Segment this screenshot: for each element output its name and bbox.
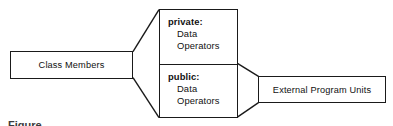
class-members-detail-node: private: Data Operators public: Data Ope…	[159, 9, 238, 118]
connector-public-top-to-external-units	[237, 63, 259, 76]
connector-public-bottom-to-external-units	[237, 103, 259, 118]
private-section-member-operators: Operators	[168, 40, 237, 52]
public-section-title: public:	[168, 71, 237, 83]
connector-class-members-to-public	[133, 78, 159, 118]
public-section: public: Data Operators	[160, 64, 237, 118]
public-section-member-data: Data	[168, 83, 237, 95]
figure-caption: Figure	[8, 119, 308, 126]
connector-class-members-to-private	[133, 10, 159, 52]
private-section-title: private:	[168, 16, 237, 28]
class-members-label: Class Members	[39, 60, 105, 70]
private-section: private: Data Operators	[160, 10, 237, 64]
public-section-member-operators: Operators	[168, 95, 237, 107]
external-program-units-node: External Program Units	[258, 76, 386, 103]
class-members-node: Class Members	[10, 51, 133, 79]
external-program-units-label: External Program Units	[273, 85, 371, 95]
private-section-member-data: Data	[168, 28, 237, 40]
diagram-canvas: Class Members private: Data Operators pu…	[0, 0, 393, 126]
